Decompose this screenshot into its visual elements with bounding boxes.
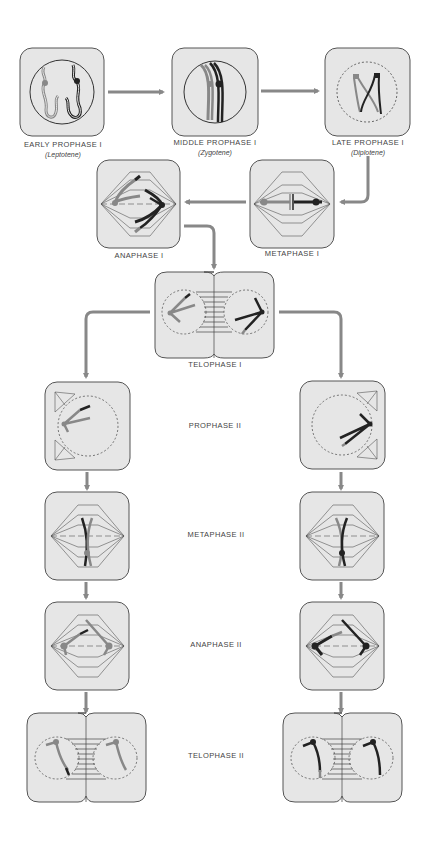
cell-metaphase-1 <box>250 160 334 248</box>
cell-metaphase-2-left <box>45 492 129 580</box>
label-prophase-2: PROPHASE II <box>170 421 260 430</box>
cell-telophase-2-left <box>27 713 146 802</box>
label-metaphase-2: METAPHASE II <box>170 530 262 539</box>
cell-early-prophase-1 <box>20 48 104 136</box>
label-anaphase-1: ANAPHASE I <box>97 251 181 260</box>
cell-prophase-2-right <box>300 381 385 469</box>
arrow-late-to-metaphase1 <box>341 156 368 202</box>
cell-metaphase-2-right <box>300 492 384 580</box>
cell-anaphase-2-left <box>45 602 129 690</box>
cell-anaphase-1 <box>97 160 180 248</box>
label-middle-prophase-1: MIDDLE PROPHASE I <box>168 138 262 147</box>
label-late-prophase-1: LATE PROPHASE I <box>324 138 412 147</box>
arrow-telophase1-to-right <box>279 312 341 377</box>
cell-telophase-2-right <box>283 713 402 802</box>
sublabel-early-prophase-1: (Leptotene) <box>20 151 106 158</box>
label-metaphase-1: METAPHASE I <box>250 249 334 258</box>
sublabel-late-prophase-1: (Diplotene) <box>324 149 412 156</box>
arrow-anaphase1-to-telophase1 <box>184 226 214 268</box>
cell-anaphase-2-right <box>300 602 384 690</box>
cell-middle-prophase-1 <box>172 48 258 136</box>
cell-prophase-2-left <box>45 382 130 470</box>
label-telophase-1: TELOPHASE I <box>170 360 260 369</box>
label-early-prophase-1: EARLY PROPHASE I <box>20 140 106 149</box>
label-telophase-2: TELOPHASE II <box>170 751 262 760</box>
cell-late-prophase-1 <box>325 48 410 136</box>
cell-telophase-1 <box>155 272 274 358</box>
sublabel-middle-prophase-1: (Zygotene) <box>168 149 262 156</box>
arrow-telophase1-to-left <box>86 312 150 377</box>
label-anaphase-2: ANAPHASE II <box>170 640 262 649</box>
